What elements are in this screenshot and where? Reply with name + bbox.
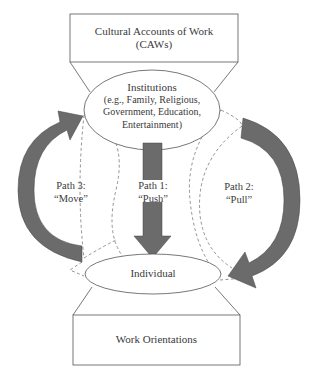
- path2-name: “Pull”: [212, 193, 266, 206]
- path1-name: “Push”: [126, 192, 180, 205]
- connector-line: [215, 287, 240, 315]
- connector-line: [73, 287, 92, 315]
- institutions-label: Institutions (e.g., Family, Religious, G…: [84, 81, 220, 131]
- path3-title: Path 3:: [44, 179, 98, 192]
- institutions-examples-2: Government, Education,: [84, 106, 220, 119]
- caws-label: Cultural Accounts of Work (CAWs): [70, 25, 238, 51]
- path2-label: Path 2: “Pull”: [212, 180, 266, 206]
- institutions-examples-3: Entertainment): [84, 119, 220, 132]
- individual-label: Individual: [103, 267, 203, 280]
- caws-line1: Cultural Accounts of Work: [70, 25, 238, 38]
- institutions-examples-1: (e.g., Family, Religious,: [84, 94, 220, 107]
- institutions-title: Institutions: [84, 81, 220, 94]
- work-orientations-label: Work Orientations: [73, 333, 240, 346]
- path1-title: Path 1:: [126, 179, 180, 192]
- path3-label: Path 3: “Move”: [44, 179, 98, 205]
- path3-name: “Move”: [44, 192, 98, 205]
- path1-label: Path 1: “Push”: [126, 179, 180, 205]
- caws-line2: (CAWs): [70, 38, 238, 51]
- path2-title: Path 2:: [212, 180, 266, 193]
